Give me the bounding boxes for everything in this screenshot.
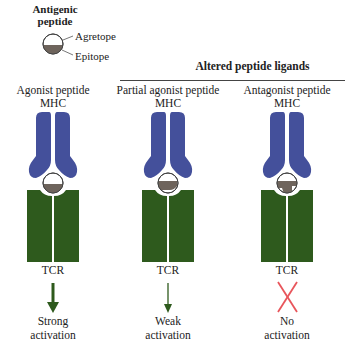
mhc-tcr-complex-antagonist: [0, 0, 345, 344]
tcr-label-1: TCR: [23, 264, 83, 276]
x-mark-icon: [278, 282, 297, 312]
outcome-line1: No: [242, 314, 332, 328]
tcr-label-2: TCR: [138, 264, 198, 276]
tcr-label-3: TCR: [257, 264, 317, 276]
outcome-antagonist: No activation: [242, 314, 332, 342]
outcome-line2: activation: [242, 328, 332, 342]
outcome-agonist: Strong activation: [8, 314, 98, 342]
outcome-line2: activation: [8, 328, 98, 342]
outcome-line1: Strong: [8, 314, 98, 328]
outcome-partial-agonist: Weak activation: [123, 314, 213, 342]
outcome-line1: Weak: [123, 314, 213, 328]
outcome-line2: activation: [123, 328, 213, 342]
